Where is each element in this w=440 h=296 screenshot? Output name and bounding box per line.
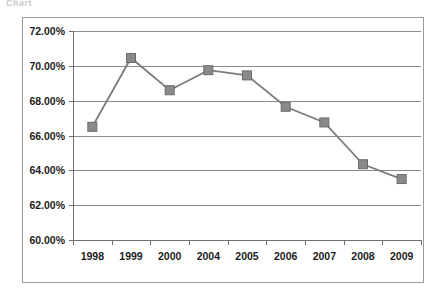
x-axis-tick-label: 2000 xyxy=(158,250,182,262)
y-axis-tick-label: 70.00% xyxy=(29,60,65,72)
y-axis-tick-label: 72.00% xyxy=(29,25,65,37)
x-axis-tick-label: 1999 xyxy=(119,250,143,262)
y-axis-tick-label: 62.00% xyxy=(29,199,65,211)
data-point-marker xyxy=(281,102,290,111)
y-axis-tick-label: 68.00% xyxy=(29,95,65,107)
x-axis-tick-label: 2009 xyxy=(390,250,414,262)
data-point-marker xyxy=(204,66,213,75)
chart-frame: 72.00%70.00%68.00%66.00%64.00%62.00%60.0… xyxy=(22,17,424,283)
x-axis-labels-group: 199819992000200420052006200720082009 xyxy=(81,250,414,262)
y-axis-tick-label: 60.00% xyxy=(29,234,65,246)
data-point-marker xyxy=(165,86,174,95)
series-markers-group xyxy=(88,54,406,184)
y-axis-ticks-group xyxy=(69,32,73,241)
data-point-marker xyxy=(397,175,406,184)
x-axis-tick-label: 2007 xyxy=(313,250,337,262)
line-chart: 72.00%70.00%68.00%66.00%64.00%62.00%60.0… xyxy=(23,18,423,282)
data-point-marker xyxy=(127,54,136,63)
x-axis-tick-label: 1998 xyxy=(81,250,105,262)
x-axis-tick-label: 2006 xyxy=(274,250,298,262)
scan-artifact-text: Chart xyxy=(6,0,32,6)
x-axis-tick-label: 2005 xyxy=(235,250,259,262)
x-axis-tick-label: 2008 xyxy=(351,250,375,262)
data-point-marker xyxy=(359,160,368,169)
data-point-marker xyxy=(243,71,252,80)
x-axis-tick-label: 2004 xyxy=(197,250,221,262)
y-axis-labels-group: 72.00%70.00%68.00%66.00%64.00%62.00%60.0… xyxy=(29,25,65,246)
data-point-marker xyxy=(320,118,329,127)
gridlines-group xyxy=(73,32,421,241)
data-point-marker xyxy=(88,122,97,131)
y-axis-tick-label: 66.00% xyxy=(29,130,65,142)
y-axis-tick-label: 64.00% xyxy=(29,164,65,176)
